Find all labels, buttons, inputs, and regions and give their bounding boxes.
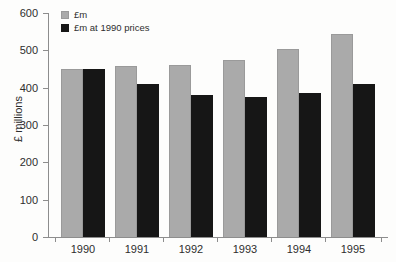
y-axis-line [48, 13, 49, 238]
bar-1990-series-1 [83, 69, 105, 237]
x-axis-tick-label: 1991 [107, 244, 167, 255]
y-axis-tick [43, 162, 48, 163]
x-axis-tick [381, 237, 382, 242]
y-axis-tick [43, 50, 48, 51]
x-axis-tick [325, 237, 326, 242]
bar-1995-series-0 [331, 34, 353, 237]
y-axis-tick-label: 100 [0, 194, 38, 205]
legend-label: £m [74, 10, 87, 20]
x-axis-line [48, 237, 388, 238]
y-axis-tick-label: 0 [0, 232, 38, 243]
x-axis-tick [55, 237, 56, 242]
y-axis-tick [43, 13, 48, 14]
x-axis-tick-label: 1994 [269, 244, 329, 255]
legend-swatch-icon [61, 11, 69, 19]
x-axis-tick-label: 1995 [323, 244, 383, 255]
legend: £m£m at 1990 prices [61, 9, 150, 35]
x-axis-tick-label: 1992 [161, 244, 221, 255]
bar-chart: 0100200300400500600 £ millions 199019911… [0, 0, 396, 262]
legend-swatch-icon [61, 24, 69, 32]
bar-1995-series-1 [353, 84, 375, 237]
x-axis-tick-label: 1990 [53, 244, 113, 255]
legend-label: £m at 1990 prices [74, 23, 150, 33]
bar-1991-series-0 [115, 66, 137, 237]
bar-1991-series-1 [137, 84, 159, 237]
legend-item: £m at 1990 prices [61, 22, 150, 33]
y-axis-tick [43, 200, 48, 201]
x-axis-tick [217, 237, 218, 242]
x-axis-tick [163, 237, 164, 242]
x-axis-tick-label: 1993 [215, 244, 275, 255]
x-axis-tick [109, 237, 110, 242]
y-axis-tick-label: 600 [0, 8, 38, 19]
bar-1992-series-0 [169, 65, 191, 237]
x-axis-tick [271, 237, 272, 242]
y-axis-title: £ millions [12, 74, 24, 164]
y-axis-tick [43, 125, 48, 126]
bar-1993-series-1 [245, 97, 267, 237]
y-axis-tick-label: 500 [0, 45, 38, 56]
bar-1992-series-1 [191, 95, 213, 237]
bar-1994-series-1 [299, 93, 321, 237]
bar-1994-series-0 [277, 49, 299, 237]
bar-1990-series-0 [61, 69, 83, 237]
y-axis-tick [43, 88, 48, 89]
bar-1993-series-0 [223, 60, 245, 237]
legend-item: £m [61, 9, 150, 20]
